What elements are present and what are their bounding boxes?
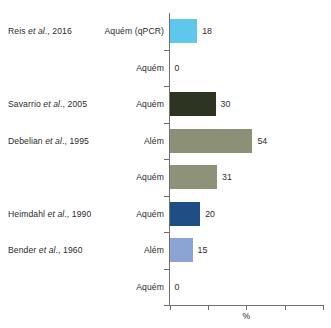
chart-row: Savarrio et al., 2005Aquém30 xyxy=(0,86,331,123)
category-label: Além xyxy=(60,136,164,146)
category-label: Aquém xyxy=(60,282,164,292)
chart-row: Aquém31 xyxy=(0,159,331,196)
chart-row: Bender et al., 1960Além15 xyxy=(0,232,331,269)
y-axis-tick xyxy=(164,196,169,197)
study-etal: et al xyxy=(28,26,45,36)
y-axis-tick xyxy=(164,232,169,233)
bar-value-label: 0 xyxy=(175,63,180,73)
bar-value-label: 18 xyxy=(202,26,212,36)
x-axis-title: % xyxy=(242,311,250,321)
study-etal: et al xyxy=(39,245,56,255)
bar-value-label: 30 xyxy=(221,99,231,109)
study-author: Debelian xyxy=(8,136,45,146)
x-axis-tick xyxy=(208,305,209,310)
category-label: Aquém xyxy=(60,99,164,109)
category-label: Aquém xyxy=(60,172,164,182)
y-axis-tick xyxy=(164,123,169,124)
chart-row: Aquém0 xyxy=(0,269,331,306)
chart-row: Aquém0 xyxy=(0,50,331,87)
x-axis-tick xyxy=(323,305,324,310)
y-axis-tick xyxy=(164,269,169,270)
bar xyxy=(170,165,218,189)
study-author: Reis xyxy=(8,26,28,36)
bar xyxy=(170,19,198,43)
bar xyxy=(170,238,193,262)
x-axis-tick xyxy=(170,305,171,310)
bar-value-label: 54 xyxy=(257,136,267,146)
bar xyxy=(170,202,201,226)
category-label: Aquém (qPCR) xyxy=(60,26,164,36)
y-axis-tick xyxy=(164,86,169,87)
bar-value-label: 15 xyxy=(198,245,208,255)
study-author: Heimdahl xyxy=(8,209,48,219)
y-axis-tick xyxy=(164,305,169,306)
bacteremia-bar-chart: Reis et al., 2016Aquém (qPCR)18Aquém0Sav… xyxy=(0,0,331,328)
study-etal: et al xyxy=(43,99,60,109)
category-label: Aquém xyxy=(60,63,164,73)
bar-value-label: 0 xyxy=(175,282,180,292)
study-author: Savarrio xyxy=(8,99,43,109)
category-label: Aquém xyxy=(60,209,164,219)
chart-row: Heimdahl et al., 1990Aquém20 xyxy=(0,196,331,233)
bar-value-label: 20 xyxy=(205,209,215,219)
bar-value-label: 31 xyxy=(222,172,232,182)
x-axis-tick xyxy=(246,305,247,310)
study-author: Bender xyxy=(8,245,39,255)
category-label: Além xyxy=(60,245,164,255)
x-axis-tick xyxy=(285,305,286,310)
bar xyxy=(170,129,253,153)
chart-row: Debelian et al., 1995Além54 xyxy=(0,123,331,160)
chart-row: Reis et al., 2016Aquém (qPCR)18 xyxy=(0,13,331,50)
y-axis-tick xyxy=(164,50,169,51)
bar xyxy=(170,92,216,116)
y-axis-tick xyxy=(164,159,169,160)
